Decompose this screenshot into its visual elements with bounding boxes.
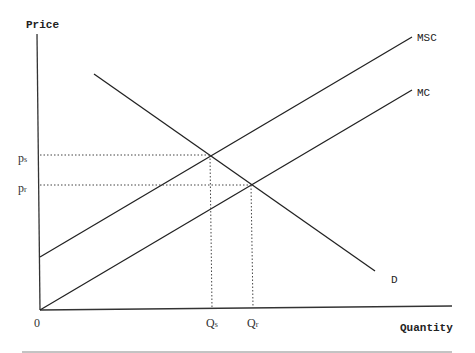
qs-label: Qs (206, 316, 218, 330)
y-axis (37, 34, 40, 310)
y-axis-label: Price (26, 19, 59, 31)
qr-guide (251, 185, 253, 307)
x-axis (40, 306, 452, 310)
x-axis-label: Quantity (400, 322, 453, 334)
qr-label: Qr (247, 316, 259, 330)
economics-diagram: Price Quantity 0 MSC MC D ps pr Qs Qr (0, 0, 475, 353)
ps-label: ps (18, 151, 27, 165)
mc-curve (40, 90, 412, 310)
msc-curve (40, 37, 412, 257)
pr-label: pr (18, 181, 27, 195)
qs-guide (210, 155, 212, 308)
origin-label: 0 (34, 316, 40, 330)
demand-curve (94, 74, 375, 271)
mc-label: MC (417, 87, 431, 99)
msc-label: MSC (417, 32, 437, 44)
demand-label: D (391, 274, 398, 286)
